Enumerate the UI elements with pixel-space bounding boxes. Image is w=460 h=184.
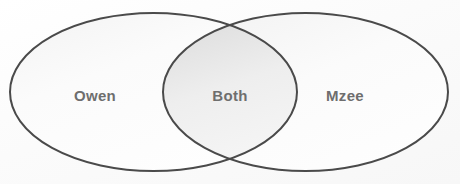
venn-diagram: Owen Both Mzee <box>0 0 460 184</box>
venn-label-right: Mzee <box>326 87 364 104</box>
venn-label-left: Owen <box>74 87 116 104</box>
venn-label-overlap: Both <box>212 87 247 104</box>
